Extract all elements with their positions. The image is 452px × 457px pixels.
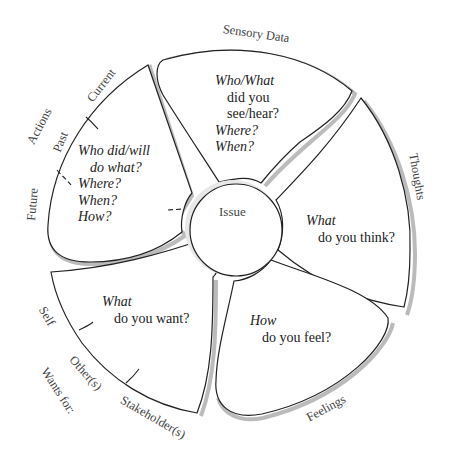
- question-line: What: [306, 213, 336, 228]
- question-line: Who/What: [215, 73, 274, 88]
- question-line: Where?: [78, 176, 121, 191]
- question-line: Where?: [215, 123, 258, 138]
- question-line: do what?: [90, 160, 142, 175]
- questions-sensory: Who/What did you see/hear? Where? When?: [215, 73, 279, 156]
- question-line: What: [102, 294, 132, 309]
- questions-actions: Who did/will do what? Where? When? How?: [78, 143, 150, 226]
- sublabel-future: Future: [24, 187, 42, 221]
- questions-wants: What do you want?: [102, 294, 189, 327]
- question-line: Who did/will: [78, 143, 150, 158]
- center-label: Issue: [219, 204, 246, 220]
- question-line: see/hear?: [215, 106, 279, 123]
- question-line: did you: [215, 90, 279, 107]
- question-line: How: [250, 313, 276, 328]
- question-line: How?: [78, 209, 111, 224]
- question-line: do you want?: [102, 311, 189, 328]
- question-line: do you think?: [306, 230, 395, 247]
- questions-thoughts: What do you think?: [306, 213, 395, 246]
- issue-circle: [185, 180, 282, 276]
- question-line: do you feel?: [250, 330, 331, 347]
- question-line: When?: [78, 193, 117, 208]
- question-line: When?: [215, 139, 254, 154]
- questions-feelings: How do you feel?: [250, 313, 331, 346]
